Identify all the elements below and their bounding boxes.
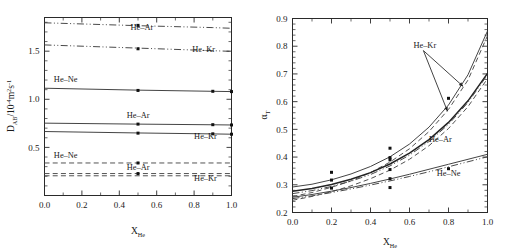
right-plot-svg: He–KrHe–ArHe–Ne 0.00.20.40.60.81.00.20.3… [254,0,508,252]
y-tick-label: 1.0 [28,94,40,104]
annotation-label: He–Ne [437,169,461,178]
left-yaxis-label-mid: /10 [6,104,16,116]
right-annotation-labels: He–KrHe–ArHe–Ne [413,41,460,179]
left-xaxis-label-sub: He [138,231,145,238]
y-tick-label: 0.7 [276,69,288,79]
curve-label: He–Kr [194,174,217,183]
x-tick-label: 0.8 [443,217,455,227]
data-point [211,90,214,93]
chart-panel-right: He–KrHe–ArHe–Ne 0.00.20.40.60.81.00.20.3… [254,0,508,252]
y-tick-label: 0.4 [276,152,288,162]
right-xaxis-label: XHe [383,237,397,249]
right-yaxis-label-sub: T [264,110,271,114]
figure-container: He–ArHe–KrHe–NeHe–ArHe–KrHe–NeHe–ArHe–Kr… [0,0,508,252]
y-tick-label: 0.6 [276,97,288,107]
x-tick-label: 0.0 [39,200,51,210]
left-plot-svg: He–ArHe–KrHe–NeHe–ArHe–KrHe–NeHe–ArHe–Kr… [0,0,254,252]
chart-panel-left: He–ArHe–KrHe–NeHe–ArHe–KrHe–NeHe–ArHe–Kr… [0,0,254,252]
x-tick-label: 0.8 [188,200,200,210]
curve-label: He–Kr [192,45,215,54]
y-tick-label: 0.2 [276,208,287,218]
x-tick-label: 0.0 [287,217,299,227]
data-point [389,186,392,189]
annotation-label: He–Ar [429,135,452,144]
x-tick-label: 0.2 [76,200,87,210]
data-point [230,133,233,136]
data-point [211,123,214,126]
left-xaxis-label: XHe [131,226,145,238]
left-curve-labels-group: He–ArHe–KrHe–NeHe–ArHe–KrHe–NeHe–ArHe–Kr [54,23,217,183]
x-tick-label: 0.4 [365,217,377,227]
y-tick-label: 0.5 [276,125,288,135]
data-point [330,179,333,182]
data-point [389,177,392,180]
data-point [230,123,233,126]
data-point [137,172,140,175]
x-tick-label: 1.0 [226,200,238,210]
y-tick-label: 0.9 [276,14,288,24]
annotation-arrow [423,51,447,112]
curve-label: He–Ar [127,111,150,120]
data-point [447,97,450,100]
x-tick-label: 0.2 [326,217,337,227]
left-tick-labels-group: 0.00.20.40.60.81.00.51.01.5 [28,46,237,209]
curve-label: He–Ne [54,151,78,160]
annotation-label: He–Kr [413,41,436,50]
left-yaxis-label-sub1: AB [11,117,18,126]
data-point [389,168,392,171]
data-point [137,47,140,50]
left-yaxis-label: DAB/10-4m2s-1 [5,80,18,132]
data-point [137,123,140,126]
curve-label: He–Ar [127,163,150,172]
right-yaxis-label: αT [259,110,271,119]
right-plot-frame [293,19,488,213]
data-point [330,171,333,174]
right-axis-ticks [293,19,488,213]
data-point [389,147,392,150]
curve-label: He–Kr [194,132,217,141]
curve-label: He–Ne [54,75,78,84]
y-tick-label: 0.8 [276,41,288,51]
x-tick-label: 0.6 [404,217,416,227]
curve-label: He–Ar [131,23,154,32]
y-tick-label: 0.5 [28,143,40,153]
x-tick-label: 0.4 [114,200,126,210]
x-tick-label: 1.0 [482,217,494,227]
right-xaxis-label-sub: He [390,242,397,249]
data-point [137,132,140,135]
y-tick-label: 0.3 [276,180,288,190]
data-point [230,90,233,93]
data-point [137,89,140,92]
left-yaxis-label-sup3: -1 [5,80,12,85]
annotation-arrow [423,51,463,87]
y-tick-label: 1.5 [28,46,40,56]
data-point [389,158,392,161]
right-annotation-arrows [423,51,463,112]
x-tick-label: 0.6 [151,200,163,210]
left-datapoints-group [137,24,234,175]
data-point [330,187,333,190]
